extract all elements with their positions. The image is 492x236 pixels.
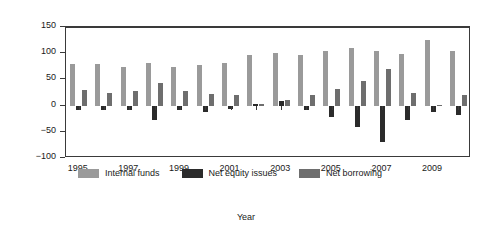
bar-net-borrowing-2002 — [259, 104, 264, 106]
x-axis-tick — [357, 106, 358, 110]
bar-net-borrowing-1995 — [82, 90, 87, 105]
x-axis-tick — [205, 106, 206, 110]
y-axis-tick-label: 0 — [22, 100, 56, 109]
legend-swatch-icon — [182, 169, 203, 178]
bar-net-borrowing-2000 — [209, 94, 214, 106]
bar-net-borrowing-2003 — [285, 100, 290, 105]
bar-net-borrowing-2001 — [234, 95, 239, 106]
bar-internal-funds-1998 — [146, 63, 151, 105]
bar-net-borrowing-2007 — [386, 69, 391, 106]
legend-swatch-icon — [78, 169, 99, 178]
bar-net-borrowing-2004 — [310, 95, 315, 105]
bar-internal-funds-2007 — [374, 51, 379, 105]
x-axis-tick — [281, 106, 282, 110]
y-axis-tick-label: 100 — [22, 47, 56, 56]
chart-legend: Internal fundsNet equity issuesNet borro… — [78, 168, 404, 178]
x-axis-tick — [433, 106, 434, 110]
legend-label: Internal funds — [105, 168, 160, 178]
bar-internal-funds-1995 — [70, 64, 75, 105]
y-axis-tick-label: −50 — [22, 126, 56, 135]
x-axis-title: Year — [0, 212, 492, 222]
plot-area — [65, 26, 470, 157]
y-axis-tick-label: 50 — [22, 73, 56, 82]
bar-net-borrowing-1999 — [183, 91, 188, 106]
y-axis-tick — [60, 52, 65, 53]
bar-net-borrowing-2009 — [437, 105, 442, 106]
bar-internal-funds-1997 — [121, 67, 126, 106]
x-axis-tick — [104, 106, 105, 110]
bar-net-borrowing-2006 — [361, 81, 366, 106]
bar-net-borrowing-2010 — [462, 95, 467, 106]
bar-net-borrowing-1997 — [133, 91, 138, 105]
chart-figure: Total sources, % Year 150100500−50−100 1… — [0, 0, 492, 236]
x-axis-tick — [231, 106, 232, 110]
y-axis-tick — [60, 105, 65, 106]
legend-item-net-borrowing: Net borrowing — [299, 168, 382, 178]
x-axis-tick — [129, 106, 130, 110]
bar-internal-funds-2004 — [298, 55, 303, 105]
bar-internal-funds-2009 — [425, 40, 430, 106]
bar-internal-funds-1996 — [95, 64, 100, 106]
x-axis-tick — [79, 106, 80, 110]
x-axis-tick — [382, 106, 383, 110]
x-axis-tick — [458, 106, 459, 110]
y-axis-tick-label: 150 — [22, 21, 56, 30]
legend-swatch-icon — [299, 169, 320, 178]
x-axis-tick — [332, 106, 333, 110]
bar-internal-funds-2001 — [222, 63, 227, 106]
y-axis-tick — [60, 78, 65, 79]
bar-net-borrowing-1998 — [158, 83, 163, 106]
bar-internal-funds-2010 — [450, 51, 455, 105]
bar-internal-funds-2005 — [323, 51, 328, 105]
bar-internal-funds-1999 — [171, 67, 176, 106]
bar-internal-funds-2006 — [349, 48, 354, 105]
legend-label: Net equity issues — [209, 168, 278, 178]
x-axis-tick — [306, 106, 307, 110]
legend-label: Net borrowing — [326, 168, 382, 178]
bar-internal-funds-2003 — [273, 53, 278, 105]
bar-net-borrowing-2005 — [335, 89, 340, 105]
legend-item-net-equity-issues: Net equity issues — [182, 168, 278, 178]
x-axis-tick — [256, 106, 257, 110]
y-axis-tick — [60, 26, 65, 27]
legend-item-internal-funds: Internal funds — [78, 168, 160, 178]
bar-internal-funds-2000 — [197, 65, 202, 105]
y-axis-tick-label: −100 — [22, 152, 56, 161]
bar-net-borrowing-2008 — [411, 93, 416, 106]
bar-net-equity-issues-2007 — [380, 106, 385, 143]
x-axis-tick — [180, 106, 181, 110]
x-axis-tick-label: 2009 — [412, 163, 452, 173]
zero-baseline — [66, 27, 469, 28]
bar-internal-funds-2002 — [247, 55, 252, 106]
bar-net-borrowing-1996 — [107, 93, 112, 106]
x-axis-tick — [155, 106, 156, 110]
x-axis-tick — [408, 106, 409, 110]
y-axis-tick — [60, 157, 65, 158]
y-axis-tick — [60, 131, 65, 132]
bar-internal-funds-2008 — [399, 54, 404, 106]
